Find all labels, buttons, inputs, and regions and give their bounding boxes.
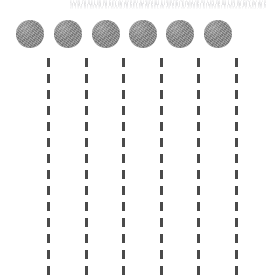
dash-segment — [47, 154, 50, 163]
dash-segment — [85, 154, 88, 163]
dash-segment — [160, 122, 163, 131]
dash-segment — [160, 266, 163, 275]
dash-segment — [235, 250, 238, 259]
dash-segment — [235, 106, 238, 115]
dash-segment — [122, 154, 125, 163]
dash-segment — [122, 234, 125, 243]
circle-2 — [54, 20, 82, 48]
dash-segment — [160, 170, 163, 179]
dash-segment — [47, 202, 50, 211]
dashed-line-4 — [160, 58, 163, 279]
dash-segment — [197, 170, 200, 179]
dash-segment — [235, 138, 238, 147]
dash-segment — [197, 74, 200, 83]
dashed-line-5 — [197, 58, 200, 279]
dash-segment — [47, 122, 50, 131]
dash-segment — [160, 74, 163, 83]
dash-segment — [85, 58, 88, 67]
dash-segment — [160, 138, 163, 147]
dash-segment — [160, 106, 163, 115]
dash-segment — [47, 90, 50, 99]
dash-segment — [47, 234, 50, 243]
dash-segment — [85, 90, 88, 99]
dash-segment — [235, 90, 238, 99]
dash-segment — [235, 170, 238, 179]
dash-segment — [122, 106, 125, 115]
circle-4 — [129, 20, 157, 48]
dash-segment — [85, 122, 88, 131]
scan-noise-strip — [70, 0, 266, 9]
dash-segment — [85, 266, 88, 275]
dash-segment — [85, 250, 88, 259]
dash-segment — [160, 202, 163, 211]
dashed-line-1 — [47, 58, 50, 279]
dash-segment — [47, 138, 50, 147]
dash-segment — [47, 266, 50, 275]
dash-segment — [160, 90, 163, 99]
dash-segment — [85, 106, 88, 115]
dash-segment — [122, 138, 125, 147]
dash-segment — [235, 218, 238, 227]
diagram-canvas — [0, 0, 275, 279]
dashed-line-6 — [235, 58, 238, 279]
dash-segment — [47, 186, 50, 195]
dash-segment — [197, 202, 200, 211]
dash-segment — [160, 250, 163, 259]
dash-segment — [235, 58, 238, 67]
dashed-line-3 — [122, 58, 125, 279]
dash-segment — [235, 74, 238, 83]
dash-segment — [47, 250, 50, 259]
dash-segment — [85, 138, 88, 147]
dash-segment — [235, 266, 238, 275]
dash-segment — [197, 154, 200, 163]
dash-segment — [197, 218, 200, 227]
dash-segment — [160, 58, 163, 67]
dash-segment — [122, 58, 125, 67]
dash-segment — [235, 122, 238, 131]
dash-segment — [47, 218, 50, 227]
dash-segment — [235, 234, 238, 243]
dash-segment — [160, 234, 163, 243]
dash-segment — [85, 202, 88, 211]
circle-1 — [16, 20, 44, 48]
dash-segment — [197, 122, 200, 131]
dash-segment — [85, 186, 88, 195]
dash-segment — [122, 202, 125, 211]
dash-segment — [197, 58, 200, 67]
dash-segment — [160, 186, 163, 195]
dash-segment — [85, 74, 88, 83]
dashed-line-2 — [85, 58, 88, 279]
dash-segment — [47, 74, 50, 83]
dash-segment — [235, 202, 238, 211]
dash-segment — [197, 234, 200, 243]
dash-segment — [160, 218, 163, 227]
dash-segment — [197, 138, 200, 147]
dash-segment — [235, 186, 238, 195]
dash-segment — [47, 106, 50, 115]
dash-segment — [122, 218, 125, 227]
dash-segment — [235, 154, 238, 163]
dash-segment — [47, 58, 50, 67]
dash-segment — [197, 90, 200, 99]
dash-segment — [197, 266, 200, 275]
circle-3 — [92, 20, 120, 48]
dash-segment — [197, 250, 200, 259]
dash-segment — [122, 170, 125, 179]
dash-segment — [122, 74, 125, 83]
dash-segment — [122, 90, 125, 99]
dash-segment — [85, 234, 88, 243]
dash-segment — [85, 218, 88, 227]
dash-segment — [197, 106, 200, 115]
circle-6 — [204, 20, 232, 48]
dash-segment — [160, 154, 163, 163]
dash-segment — [197, 186, 200, 195]
dash-segment — [122, 186, 125, 195]
dash-segment — [122, 122, 125, 131]
dash-segment — [122, 266, 125, 275]
circle-5 — [166, 20, 194, 48]
dash-segment — [85, 170, 88, 179]
dash-segment — [47, 170, 50, 179]
dash-segment — [122, 250, 125, 259]
